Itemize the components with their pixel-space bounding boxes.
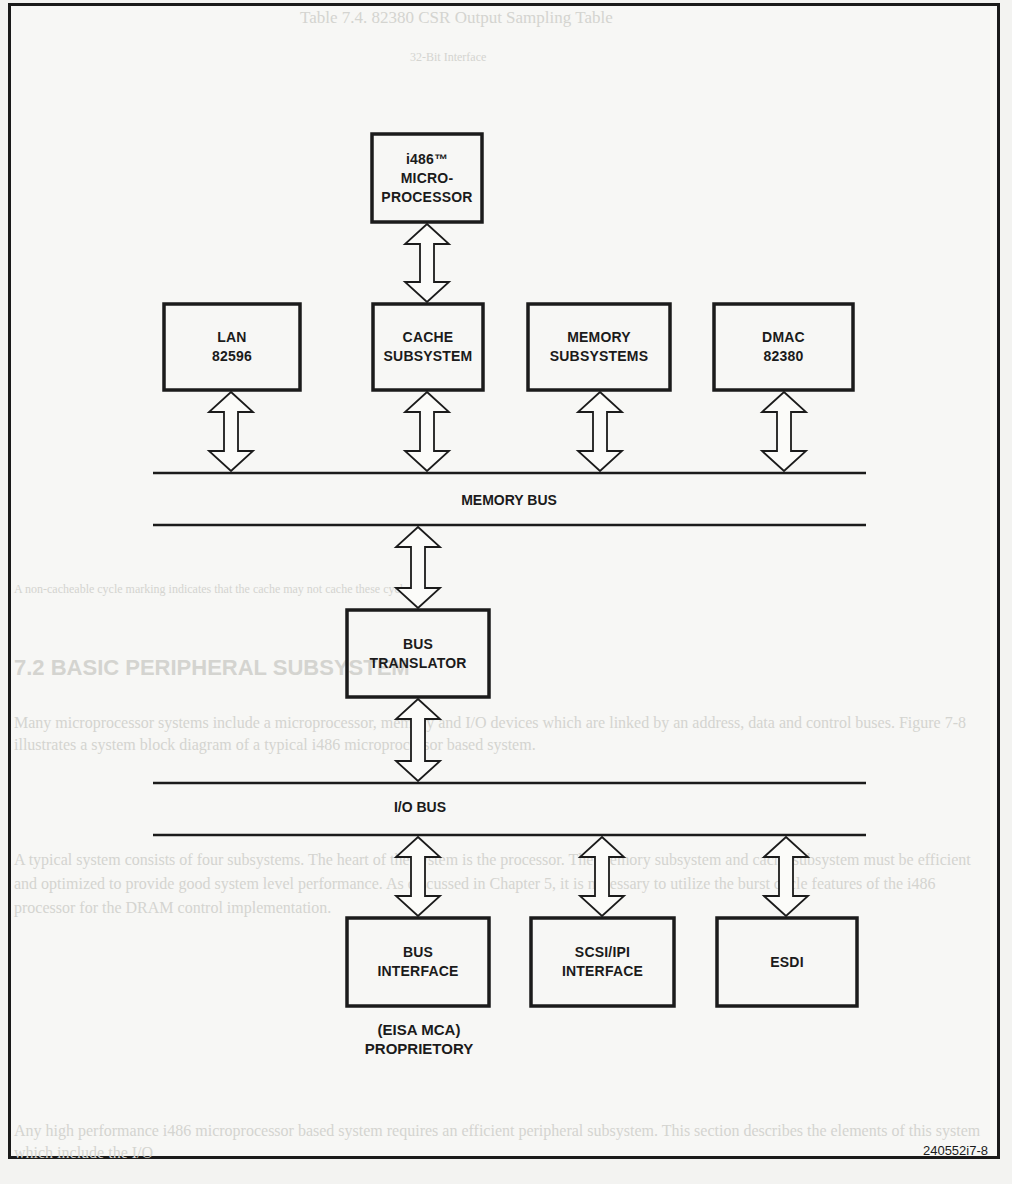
bus-translator-label: BUS TRANSLATOR bbox=[347, 610, 489, 697]
cpu-cache-arrow-icon bbox=[405, 224, 449, 302]
bus-interface-label: BUS INTERFACE bbox=[347, 918, 489, 1006]
block-diagram bbox=[0, 0, 1012, 1184]
dmac-bus-arrow-icon bbox=[762, 392, 806, 471]
io-esdi-arrow-icon bbox=[764, 837, 808, 916]
bus-translator-arrow-icon bbox=[396, 527, 440, 608]
memory-label-line: MEMORY bbox=[567, 328, 631, 347]
cache-label-line: CACHE bbox=[403, 328, 454, 347]
bus-interface-label-line: INTERFACE bbox=[377, 962, 458, 981]
cpu-label-line: PROCESSOR bbox=[381, 188, 472, 207]
bus-interface-caption-line: (EISA MCA) bbox=[365, 1020, 473, 1039]
bus-translator-label-line: BUS bbox=[403, 635, 433, 654]
cpu-label-line: i486™ bbox=[406, 150, 448, 169]
scsi-label: SCSI/IPI INTERFACE bbox=[531, 918, 674, 1006]
io-bus-interface-arrow-icon bbox=[396, 837, 440, 916]
scsi-label-line: INTERFACE bbox=[562, 962, 643, 981]
lan-label: LAN 82596 bbox=[164, 304, 300, 390]
lan-bus-arrow-icon bbox=[209, 392, 253, 471]
bus-interface-label-line: BUS bbox=[403, 943, 433, 962]
io-scsi-arrow-icon bbox=[580, 837, 624, 916]
scsi-label-line: SCSI/IPI bbox=[575, 943, 630, 962]
memory-label-line: SUBSYSTEMS bbox=[550, 347, 648, 366]
bus-interface-caption: (EISA MCA) PROPRIETORY bbox=[365, 1020, 473, 1058]
io-bus-label: I/O BUS bbox=[394, 799, 446, 815]
dmac-label-line: 82380 bbox=[764, 347, 804, 366]
translator-io-arrow-icon bbox=[396, 699, 440, 781]
memory-bus-label: MEMORY BUS bbox=[461, 492, 557, 508]
bus-translator-label-line: TRANSLATOR bbox=[369, 654, 466, 673]
esdi-label: ESDI bbox=[717, 918, 857, 1006]
figure-id: 240552i7-8 bbox=[923, 1143, 988, 1158]
dmac-label-line: DMAC bbox=[762, 328, 805, 347]
memory-label: MEMORY SUBSYSTEMS bbox=[528, 304, 670, 390]
cache-label: CACHE SUBSYSTEM bbox=[373, 304, 483, 390]
cache-bus-arrow-icon bbox=[405, 392, 449, 471]
dmac-label: DMAC 82380 bbox=[714, 304, 853, 390]
bus-interface-caption-line: PROPRIETORY bbox=[365, 1039, 473, 1058]
lan-label-line: 82596 bbox=[212, 347, 252, 366]
cpu-label-line: MICRO- bbox=[401, 169, 454, 188]
lan-label-line: LAN bbox=[217, 328, 246, 347]
cpu-label: i486™ MICRO- PROCESSOR bbox=[372, 134, 482, 222]
memory-bus-arrow-icon bbox=[578, 392, 622, 471]
cache-label-line: SUBSYSTEM bbox=[384, 347, 473, 366]
esdi-label-line: ESDI bbox=[770, 953, 803, 972]
